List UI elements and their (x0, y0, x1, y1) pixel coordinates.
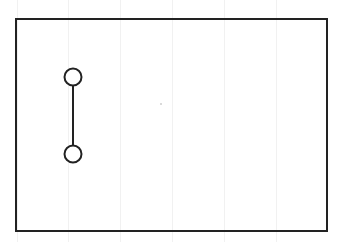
diagram-canvas (0, 0, 344, 242)
frame-rectangle (16, 19, 327, 231)
speck-dot (160, 103, 162, 105)
top-node-circle[interactable] (65, 69, 82, 86)
diagram-svg (0, 0, 344, 242)
bottom-node-circle[interactable] (65, 146, 82, 163)
